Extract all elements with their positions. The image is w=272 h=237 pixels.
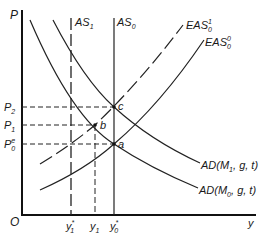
eas00-label: EAS00: [205, 35, 231, 50]
as0-label: AS0: [116, 16, 136, 30]
as-ad-diagram: P y O AS1 AS0 EAS10 EAS00 AD(M1, g, t) A…: [0, 0, 272, 237]
p1-label: P1: [4, 119, 15, 133]
y1-label: y1: [89, 220, 100, 234]
point-a-dot: [112, 142, 116, 146]
y1star-label: y*1: [65, 219, 75, 234]
point-a-label: a: [118, 138, 124, 150]
p0e-label: Pe0: [4, 137, 15, 152]
y-axis-label: P: [10, 8, 18, 22]
eas01-label: EAS10: [186, 18, 212, 33]
ad1-label: AD(M1, g, t): [200, 159, 258, 173]
origin-label: O: [10, 215, 19, 229]
point-b-dot: [93, 123, 97, 127]
eas00-curve: [40, 40, 204, 190]
y0star-label: y*0: [109, 219, 119, 234]
point-b-label: b: [100, 119, 106, 131]
ad0-label: AD(M0, g, t): [198, 184, 256, 198]
x-axis-label: y: [247, 217, 255, 229]
point-c-dot: [112, 105, 116, 109]
as1-label: AS1: [74, 16, 94, 30]
point-c-label: c: [118, 100, 124, 112]
p2-label: P2: [4, 101, 15, 115]
ad1-curve: [53, 20, 200, 163]
